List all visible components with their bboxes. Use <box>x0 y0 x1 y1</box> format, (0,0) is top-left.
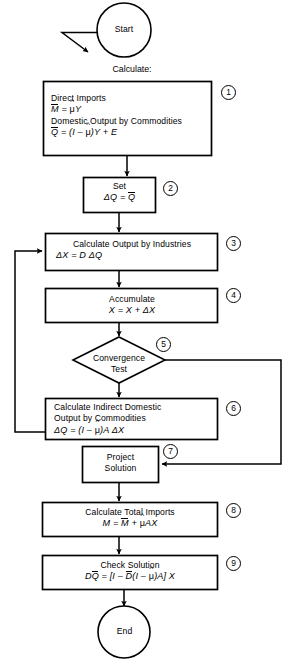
step-6-process-box[interactable] <box>45 398 218 440</box>
step-8-process-box[interactable] <box>42 502 218 537</box>
calculate-caption: Calculate: <box>96 64 168 74</box>
step-5-tag: 5 <box>156 337 171 352</box>
step-7-tag: 7 <box>163 444 178 459</box>
step-3-tag: 3 <box>226 236 241 251</box>
step-9-process-box[interactable] <box>42 555 218 590</box>
step-3-process-box[interactable] <box>45 233 218 271</box>
step-9-tag: 9 <box>226 556 241 571</box>
step-2-process-box[interactable] <box>83 177 156 213</box>
step-8-tag: 8 <box>226 503 241 518</box>
step-5-decision-box[interactable] <box>73 337 165 383</box>
step-1-tag: 1 <box>221 85 236 100</box>
entry-pointer-arrow <box>62 33 97 53</box>
step-4-process-box[interactable] <box>45 288 218 323</box>
step-2-tag: 2 <box>163 181 178 196</box>
step-4-tag: 4 <box>226 288 241 303</box>
flowchart-canvas: Start Calculate: Direct Imports M = μY D… <box>0 0 307 665</box>
end-terminator[interactable] <box>98 606 151 659</box>
connector-box6-feedback-to-box3 <box>15 251 46 432</box>
step-1-process-box[interactable] <box>43 81 212 156</box>
start-terminator[interactable] <box>97 3 151 57</box>
step-6-tag: 6 <box>226 401 241 416</box>
step-7-process-box[interactable] <box>82 446 159 483</box>
